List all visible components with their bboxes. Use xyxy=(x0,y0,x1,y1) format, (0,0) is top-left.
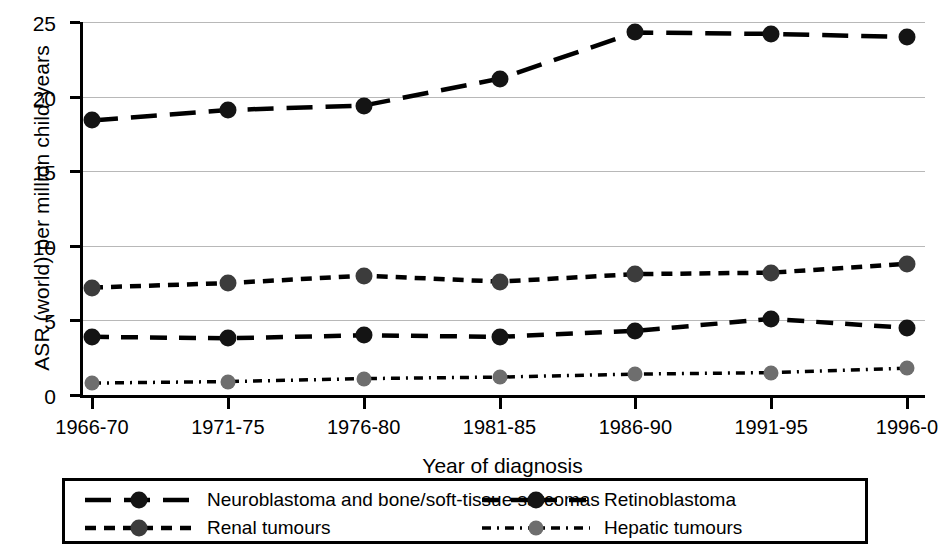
y-axis-tick: 0 xyxy=(70,394,80,397)
y-axis-title: ASR (world) per million child-years xyxy=(30,8,54,408)
y-axis-tick-label: 20 xyxy=(33,87,56,108)
legend-line-sample xyxy=(83,518,195,538)
data-point xyxy=(84,112,101,129)
data-point xyxy=(355,97,372,114)
x-axis-tick xyxy=(906,398,909,409)
y-axis-tick-label: 15 xyxy=(33,162,56,183)
y-axis-tick: 15 xyxy=(70,170,80,173)
data-point xyxy=(627,24,644,41)
legend-label: Renal tumours xyxy=(207,517,331,539)
plot-area: 0510152025 1966-701971-751976-801981-851… xyxy=(80,22,925,397)
legend-item[interactable]: Retinoblastoma xyxy=(480,487,736,513)
data-point xyxy=(220,374,235,389)
y-axis-tick-label: 10 xyxy=(33,236,56,257)
legend: Neuroblastoma and bone/soft-tissue sarco… xyxy=(62,478,868,544)
data-point xyxy=(900,361,915,376)
y-axis-tick-label: 5 xyxy=(44,311,56,332)
legend-line-sample xyxy=(83,490,195,510)
legend-label: Hepatic tumours xyxy=(604,517,742,539)
data-point xyxy=(763,25,780,42)
y-axis-tick: 25 xyxy=(70,21,80,24)
x-axis-tick-label: 1971-75 xyxy=(191,416,264,439)
legend-line-sample xyxy=(480,490,592,510)
x-axis-tick xyxy=(363,398,366,409)
data-point xyxy=(491,328,508,345)
data-point xyxy=(899,28,916,45)
x-axis-tick-label: 1986-90 xyxy=(599,416,672,439)
y-axis-tick: 20 xyxy=(70,96,80,99)
data-point xyxy=(84,328,101,345)
data-point xyxy=(492,370,507,385)
y-axis-tick-label: 0 xyxy=(44,386,56,407)
x-axis-tick-label: 1981-85 xyxy=(463,416,536,439)
x-axis-tick xyxy=(634,398,637,409)
x-axis-tick xyxy=(499,398,502,409)
data-point xyxy=(219,330,236,347)
x-axis-tick-label: 1976-80 xyxy=(327,416,400,439)
y-axis-tick: 10 xyxy=(70,245,80,248)
data-point xyxy=(764,365,779,380)
data-point xyxy=(85,376,100,391)
x-axis-tick-label: 1996-0 xyxy=(876,416,938,439)
data-point xyxy=(219,102,236,119)
data-point xyxy=(899,319,916,336)
data-point xyxy=(627,266,644,283)
data-point xyxy=(491,273,508,290)
x-axis-tick-label: 1966-70 xyxy=(55,416,128,439)
data-point xyxy=(355,327,372,344)
legend-item[interactable]: Hepatic tumours xyxy=(480,515,742,541)
y-axis-tick-label: 25 xyxy=(33,13,56,34)
data-point xyxy=(627,322,644,339)
x-axis-tick-label: 1991-95 xyxy=(734,416,807,439)
data-point xyxy=(355,267,372,284)
data-point xyxy=(219,275,236,292)
data-point xyxy=(763,310,780,327)
legend-label: Retinoblastoma xyxy=(604,489,736,511)
x-axis-tick xyxy=(770,398,773,409)
x-axis-tick xyxy=(227,398,230,409)
data-point xyxy=(763,264,780,281)
data-point xyxy=(491,70,508,87)
legend-line-sample xyxy=(480,518,592,538)
data-point xyxy=(899,255,916,272)
x-axis-tick xyxy=(91,398,94,409)
y-axis-tick: 5 xyxy=(70,319,80,322)
data-point xyxy=(628,367,643,382)
legend-item[interactable]: Renal tumours xyxy=(83,515,331,541)
x-axis-title: Year of diagnosis xyxy=(80,454,925,478)
data-point xyxy=(356,371,371,386)
data-point xyxy=(84,279,101,296)
